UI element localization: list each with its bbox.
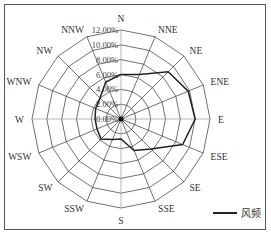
direction-label-ese: ESE	[211, 152, 228, 162]
direction-label-nw: NW	[37, 46, 53, 56]
direction-label-sw: SW	[38, 183, 52, 193]
grid-spoke	[121, 119, 184, 182]
legend-line-swatch	[213, 212, 237, 214]
center-dot	[119, 117, 124, 122]
radial-tick-label: 10.00%	[92, 40, 118, 50]
direction-label-n: N	[118, 14, 125, 24]
direction-label-ssw: SSW	[64, 204, 84, 214]
direction-label-se: SE	[190, 183, 201, 193]
direction-label-ene: ENE	[211, 77, 230, 87]
legend: 风频	[213, 205, 261, 220]
legend-label: 风频	[241, 205, 261, 220]
grid-spoke	[121, 56, 184, 119]
radial-tick-label: 0.00%	[96, 114, 118, 124]
direction-label-nne: NNE	[158, 25, 178, 35]
radial-tick-label: 8.00%	[96, 55, 118, 65]
radial-tick-label: 12.00%	[92, 25, 118, 35]
wind-rose-chart: 0.00%2.00%4.00%6.00%8.00%10.00%12.00%NNN…	[0, 0, 271, 236]
direction-label-s: S	[118, 216, 123, 226]
direction-label-w: W	[15, 115, 24, 125]
grid-spoke	[58, 119, 121, 182]
direction-label-wsw: WSW	[8, 152, 31, 162]
direction-label-sse: SSE	[158, 204, 175, 214]
radial-tick-label: 4.00%	[96, 84, 118, 94]
direction-label-wnw: WNW	[7, 77, 32, 87]
direction-label-ne: NE	[190, 46, 203, 56]
direction-label-nnw: NNW	[61, 25, 84, 35]
direction-label-e: E	[218, 115, 224, 125]
